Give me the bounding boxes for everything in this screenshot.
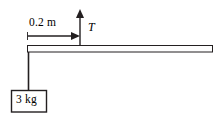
arrow-up-icon <box>76 9 84 18</box>
distance-label: 0.2 m <box>29 17 56 29</box>
beam <box>28 46 213 53</box>
mass-label: 3 kg <box>16 94 37 106</box>
tension-label: T <box>88 21 95 33</box>
arrow-right-icon <box>71 32 80 40</box>
dimension-arrow-group <box>28 32 81 40</box>
tension-arrow-group <box>76 9 84 46</box>
physics-diagram: 0.2 m T 3 kg <box>0 0 224 121</box>
